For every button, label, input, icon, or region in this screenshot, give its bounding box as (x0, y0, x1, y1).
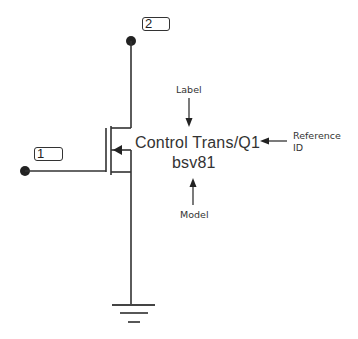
part-model[interactable]: bsv81 (172, 154, 216, 172)
annotation-label: Label (176, 84, 202, 95)
node-2-id: 2 (145, 16, 152, 31)
body-arrow-icon (113, 145, 122, 155)
node-2-label[interactable]: 2 (142, 17, 170, 31)
label-arrow-icon (186, 98, 193, 127)
part-label-reference[interactable]: Control Trans/Q1 (135, 134, 260, 152)
node-1-id: 1 (37, 146, 44, 161)
reference-id-arrow-icon (260, 138, 287, 145)
annotation-model: Model (180, 209, 209, 220)
node-1-label[interactable]: 1 (34, 147, 63, 161)
annotation-reference-id-line2: ID (293, 142, 303, 153)
model-arrow-icon (190, 178, 197, 205)
ground-icon (112, 305, 155, 322)
annotation-reference-id-line1: Reference (293, 130, 341, 141)
